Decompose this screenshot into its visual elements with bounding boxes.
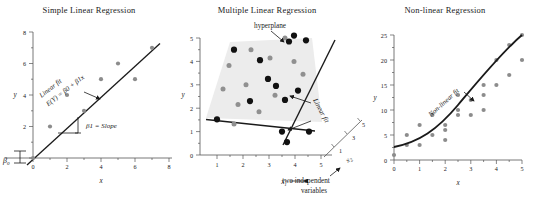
simple-y-axis-label: y [12, 91, 17, 99]
svg-text:6: 6 [133, 163, 136, 170]
svg-text:5: 5 [190, 35, 193, 42]
svg-text:5: 5 [384, 132, 387, 139]
svg-text:4: 4 [190, 58, 193, 65]
svg-text:5: 5 [319, 161, 322, 168]
simple-fit-pointer [84, 92, 100, 99]
svg-text:10: 10 [381, 107, 387, 114]
svg-text:3: 3 [469, 165, 472, 172]
nonlinear-regression-chart: 25 20 15 10 5 0 0 1 2 3 4 5 y x [357, 0, 533, 200]
regression-figure: Simple Linear Regression [0, 0, 533, 200]
svg-text:3: 3 [267, 161, 270, 168]
independent-vars-pointer-x2 [330, 168, 340, 176]
simple-intercept-bracket [14, 151, 26, 163]
multiple-fit-pointer-lower [288, 121, 311, 130]
svg-text:2: 2 [190, 105, 193, 112]
svg-text:3: 3 [352, 134, 355, 141]
svg-text:15: 15 [381, 82, 387, 89]
svg-text:1: 1 [215, 161, 218, 168]
independent-vars-label-line1: two independent [282, 177, 330, 185]
nonlinear-x-axis-label: x [455, 179, 460, 187]
svg-text:1: 1 [190, 128, 193, 135]
svg-text:5: 5 [520, 165, 523, 172]
svg-text:0: 0 [384, 157, 387, 164]
simple-regression-chart: 8 6 4 2 0 2 4 6 8 y x [0, 0, 178, 200]
svg-text:1: 1 [339, 147, 342, 154]
svg-text:8: 8 [167, 163, 170, 170]
independent-vars-label-line2: variables [301, 187, 327, 195]
svg-text:4: 4 [293, 161, 296, 168]
simple-x-axis-label: x [98, 177, 103, 185]
svg-text:0: 0 [31, 163, 34, 170]
svg-text:2: 2 [65, 163, 68, 170]
nonlinear-tick-labels: 25 20 15 10 5 0 0 1 2 3 4 5 [381, 32, 524, 173]
svg-text:4: 4 [495, 165, 498, 172]
svg-text:25: 25 [381, 32, 387, 39]
simple-slope-annotation: β1 = Slope [85, 122, 117, 130]
svg-text:4: 4 [99, 163, 102, 170]
svg-text:4: 4 [23, 92, 26, 99]
svg-text:2: 2 [444, 165, 447, 172]
hyperplane-region [206, 38, 322, 122]
multiple-y-axis-label: y [180, 91, 185, 99]
svg-text:20: 20 [381, 57, 387, 64]
multiple-x2-axis-label: x2 [343, 154, 354, 165]
svg-text:6: 6 [23, 60, 26, 67]
hyperplane-label: hyperplane [254, 22, 286, 30]
panel-multiple-linear-regression: Multiple Linear Regression [172, 0, 362, 200]
svg-text:2: 2 [241, 161, 244, 168]
svg-text:0: 0 [392, 165, 395, 172]
panel-non-linear-regression: Non-linear Regression [357, 0, 533, 200]
svg-text:0: 0 [190, 152, 193, 159]
svg-text:3: 3 [190, 81, 193, 88]
simple-axes [5, 32, 172, 162]
svg-text:2: 2 [23, 123, 26, 130]
svg-text:1: 1 [418, 165, 421, 172]
simple-fit-annotation-group: Linear fit E(Y) = β0 + β1x [37, 64, 87, 109]
svg-text:8: 8 [23, 29, 26, 36]
multiple-regression-chart: 5 4 3 2 1 0 1 2 3 4 5 y x1 [172, 0, 362, 200]
panel-simple-linear-regression: Simple Linear Regression [0, 0, 178, 200]
nonlinear-y-axis-label: y [372, 94, 377, 102]
simple-intercept-annotation: β0 [2, 156, 10, 166]
